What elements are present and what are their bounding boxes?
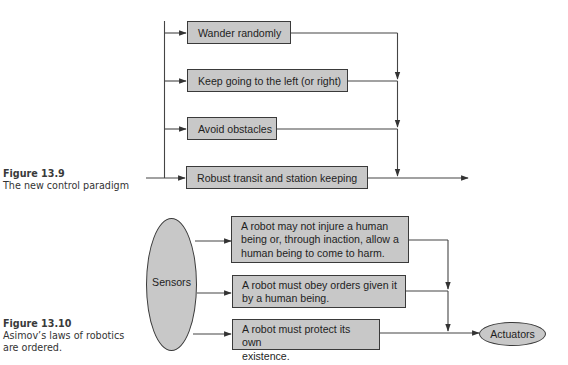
law-line: being or, through inaction, allow a	[241, 233, 401, 246]
law-line: human being to come to harm.	[241, 247, 401, 260]
behavior-avoid-obstacles: Avoid obstacles	[187, 117, 277, 140]
figure-title: The new control paradigm	[3, 180, 129, 192]
behavior-label: Robust transit and station keeping	[197, 172, 357, 184]
actuators-node: Actuators	[479, 322, 546, 346]
law-line: A robot must protect its own	[242, 323, 372, 350]
behavior-wander-randomly: Wander randomly	[187, 21, 291, 44]
behavior-label: Keep going to the left (or right)	[198, 75, 341, 87]
sensors-label: Sensors	[152, 276, 191, 288]
behavior-keep-going-left: Keep going to the left (or right)	[187, 69, 348, 92]
law-line: A robot may not injure a human	[241, 220, 401, 233]
figure-number: Figure 13.9	[3, 168, 129, 180]
behavior-robust-transit: Robust transit and station keeping	[186, 166, 368, 189]
figure-title-line-2: are ordered.	[3, 342, 124, 354]
law-line: existence.	[242, 350, 372, 363]
figure-13-10-caption: Figure 13.10 Asimov’s laws of robotics a…	[3, 318, 124, 354]
law-second: A robot must obey orders given it by a h…	[232, 275, 406, 308]
figure-title-line-1: Asimov’s laws of robotics	[3, 330, 124, 342]
behavior-label: Wander randomly	[198, 27, 281, 39]
figure-number: Figure 13.10	[3, 318, 124, 330]
law-third: A robot must protect its own existence.	[232, 319, 380, 350]
law-line: by a human being.	[242, 292, 398, 305]
behavior-label: Avoid obstacles	[198, 123, 272, 135]
sensors-node: Sensors	[146, 218, 197, 351]
actuators-label: Actuators	[490, 328, 535, 340]
figure-13-9-caption: Figure 13.9 The new control paradigm	[3, 168, 129, 192]
law-first: A robot may not injure a human being or,…	[231, 216, 409, 263]
law-line: A robot must obey orders given it	[242, 279, 398, 292]
